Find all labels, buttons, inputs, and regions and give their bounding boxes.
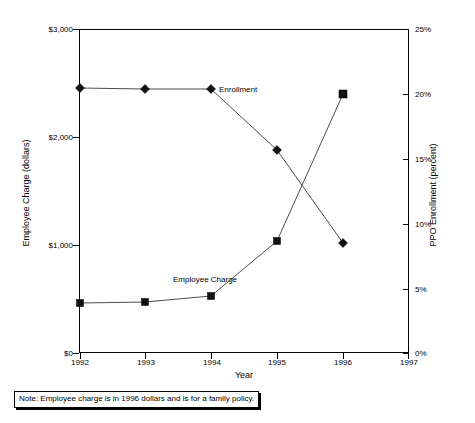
footnote-box: Note: Employee charge is in 1996 dollars… — [14, 391, 259, 408]
x-axis-label-1994: 1994 — [192, 358, 232, 367]
series-annotation-enrollment: Enrollment — [219, 85, 257, 94]
left-axis-tick-1000 — [73, 245, 79, 246]
left-axis-tick-2000 — [73, 137, 79, 138]
right-axis-tick-25 — [403, 29, 409, 30]
left-axis-tick-0 — [73, 353, 79, 354]
right-axis-label-20: 20% — [415, 90, 431, 99]
left-axis-label-2000: $2,000 — [27, 133, 73, 142]
y-axis-title-right: PPO Enrollment (percent) — [428, 105, 438, 285]
x-axis-label-1993: 1993 — [126, 358, 166, 367]
right-axis-label-25: 25% — [415, 25, 431, 34]
right-axis-tick-10 — [403, 224, 409, 225]
x-axis-label-1995: 1995 — [257, 358, 297, 367]
y-axis-title-left: Employee Charge (dollars) — [21, 103, 31, 283]
right-axis-label-0: 0% — [415, 349, 427, 358]
right-axis-tick-5 — [403, 289, 409, 290]
left-axis-label-3000: $3,000 — [27, 25, 73, 34]
right-axis-tick-15 — [403, 159, 409, 160]
left-axis-tick-3000 — [73, 29, 79, 30]
chart-figure: $3,000 $2,000 $1,000 $0 25% 20% 15% 10% … — [0, 0, 475, 423]
plot-area — [79, 29, 409, 353]
series-annotation-employee-charge: Employee Charge — [173, 275, 237, 284]
x-axis-label-1992: 1992 — [60, 358, 100, 367]
left-axis-label-0: $0 — [27, 349, 73, 358]
x-axis-label-1997: 1997 — [389, 358, 429, 367]
right-axis-tick-20 — [403, 94, 409, 95]
x-axis-title: Year — [194, 370, 294, 380]
right-axis-label-5: 5% — [415, 285, 427, 294]
left-axis-label-1000: $1,000 — [27, 241, 73, 250]
x-axis-label-1996: 1996 — [323, 358, 363, 367]
